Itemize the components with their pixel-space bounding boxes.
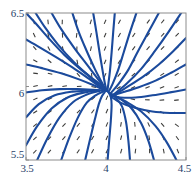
x-tick-label-max: 4.5 bbox=[178, 163, 191, 174]
field-slope-mark bbox=[149, 135, 150, 140]
field-slope-mark bbox=[62, 86, 67, 87]
plot-canvas bbox=[0, 0, 196, 187]
x-tick-label-min: 3.5 bbox=[20, 163, 33, 174]
y-tick-label-min: 5.5 bbox=[11, 149, 24, 160]
field-slope-mark bbox=[76, 33, 77, 38]
x-tick-label-mid: 4 bbox=[103, 163, 108, 174]
y-tick-label-mid: 6 bbox=[19, 88, 24, 99]
y-tick-label-max: 6.5 bbox=[11, 8, 24, 19]
field-slope-mark bbox=[174, 100, 179, 101]
phase-portrait-figure: 6.5 6 5.5 3.5 4 4.5 bbox=[0, 0, 196, 187]
field-slope-mark bbox=[135, 149, 136, 154]
